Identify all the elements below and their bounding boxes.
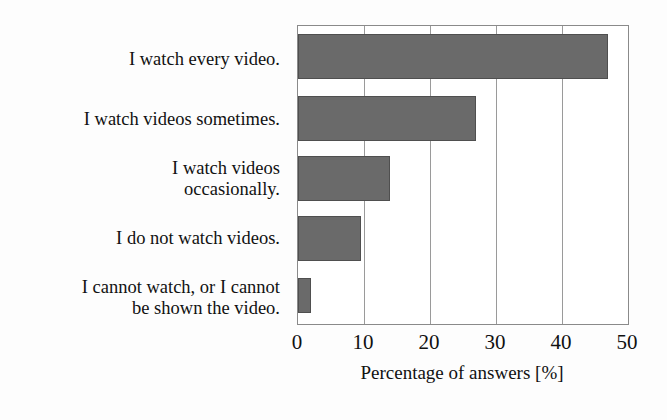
plot-area [297, 25, 629, 325]
x-tick-20: 20 [419, 330, 440, 354]
category-label-4: I cannot watch, or I cannot be shown the… [0, 277, 288, 319]
bar-1 [298, 96, 476, 141]
category-label-0: I watch every video. [0, 49, 288, 70]
category-label-2: I watch videos occasionally. [0, 158, 288, 200]
category-axis-labels: I watch every video. I watch videos some… [0, 25, 288, 323]
x-tick-0: 0 [292, 330, 303, 354]
bar-chart-figure: I watch every video. I watch videos some… [0, 0, 667, 420]
category-label-1: I watch videos sometimes. [0, 109, 288, 130]
category-label-3: I do not watch videos. [0, 228, 288, 249]
x-tick-50: 50 [617, 330, 638, 354]
bar-4 [298, 278, 311, 313]
x-tick-30: 30 [485, 330, 506, 354]
x-axis-ticks: 0 10 20 30 40 50 [297, 330, 627, 360]
bar-0 [298, 34, 608, 79]
x-tick-10: 10 [353, 330, 374, 354]
bar-2 [298, 156, 390, 201]
x-tick-40: 40 [551, 330, 572, 354]
x-axis-title: Percentage of answers [%] [297, 362, 627, 384]
bar-3 [298, 216, 361, 261]
